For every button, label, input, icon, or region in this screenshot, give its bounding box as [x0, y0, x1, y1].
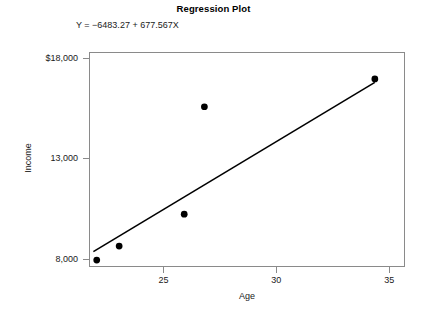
plot-area [89, 52, 405, 267]
y-tick-label: 8,000 [0, 254, 78, 264]
x-tick-label: 35 [384, 275, 394, 285]
x-tick-mark [163, 267, 164, 273]
y-tick-label: 13,000 [0, 153, 78, 163]
data-layer [90, 53, 404, 266]
x-tick-label: 25 [158, 275, 168, 285]
regression-line [93, 82, 374, 251]
x-tick-label: 30 [271, 275, 281, 285]
regression-plot-figure: Regression Plot Y = −6483.27 + 677.567X … [0, 0, 427, 314]
y-tick-label: $18,000 [0, 53, 78, 63]
x-tick-mark [276, 267, 277, 273]
data-point [116, 243, 123, 250]
data-point [201, 103, 208, 110]
data-point [371, 76, 378, 83]
regression-equation-annotation: Y = −6483.27 + 677.567X [76, 20, 179, 30]
x-tick-mark [389, 267, 390, 273]
x-axis-title: Age [89, 291, 405, 301]
data-point [181, 211, 188, 218]
chart-title: Regression Plot [0, 3, 427, 14]
data-point [93, 257, 100, 264]
